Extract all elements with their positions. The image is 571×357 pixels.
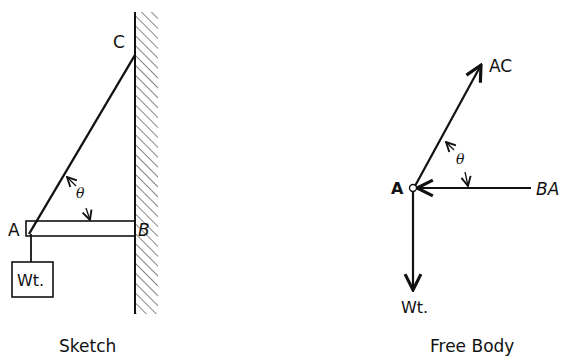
label-theta: θ — [76, 185, 85, 201]
fb-label-ac: AC — [489, 56, 512, 76]
fb-label-a: A — [391, 179, 404, 198]
diagram-canvas: C A B θ Wt. Sketch A AC BA θ Wt. Free Bo… — [0, 0, 571, 357]
label-a: A — [8, 220, 20, 240]
fb-label-weight: Wt. — [401, 298, 428, 317]
caption-free-body: Free Body — [430, 336, 514, 356]
free-body: A AC BA θ Wt. Free Body — [391, 56, 559, 356]
fb-label-ba: BA — [536, 179, 559, 199]
label-weight: Wt. — [17, 271, 44, 290]
caption-sketch: Sketch — [59, 336, 116, 356]
cable-ac — [29, 55, 135, 234]
label-c: C — [113, 32, 125, 52]
beam-ab — [26, 221, 135, 236]
sketch: C A B θ Wt. Sketch — [8, 12, 158, 356]
wall — [135, 12, 158, 314]
force-ac-arrow — [415, 65, 481, 186]
fb-label-theta: θ — [456, 151, 465, 167]
label-b: B — [138, 220, 150, 240]
point-a — [410, 185, 417, 192]
